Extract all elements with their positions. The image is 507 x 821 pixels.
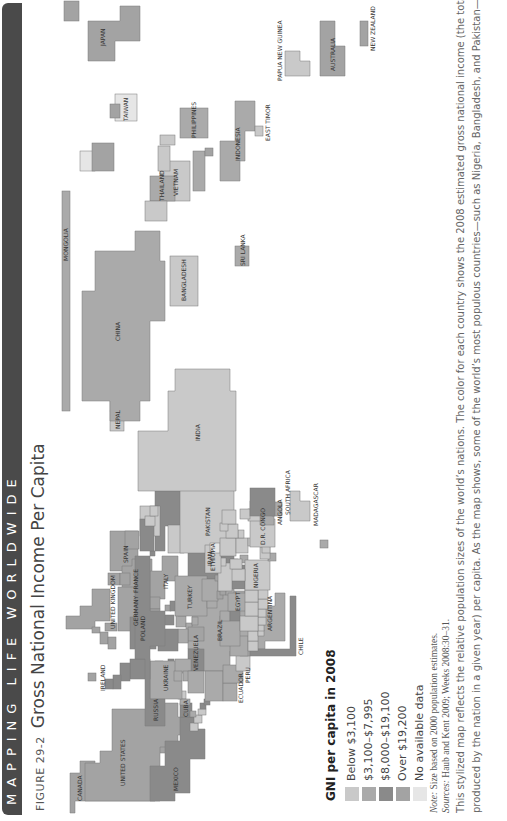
label-papua-new-guinea: PAPUA NEW GUINEA xyxy=(276,19,283,81)
label-chile: CHILE xyxy=(297,637,304,655)
country-uganda xyxy=(236,538,248,553)
label-india: INDIA xyxy=(194,423,201,441)
country-east-timor xyxy=(255,126,263,136)
label-dr-congo: D.R. CONGO xyxy=(259,508,266,545)
label-pakistan: PAKISTAN xyxy=(204,507,211,536)
legend-label: Over $19,200 xyxy=(396,706,409,781)
label-united-kingdom: UNITED KINGDOM xyxy=(109,575,116,629)
country-tunisia xyxy=(220,611,230,621)
country-hungary xyxy=(164,615,174,625)
legend-swatch xyxy=(362,787,376,801)
label-philippines: PHILIPPINES xyxy=(190,102,197,138)
label-sri-lanka: SRI LANKA xyxy=(239,233,246,266)
country-lithuania xyxy=(120,663,130,681)
country-zimbabwe xyxy=(240,509,250,519)
legend-title: GNI per capita in 2008 xyxy=(324,641,338,801)
country-belgium xyxy=(120,573,130,585)
country-singapore xyxy=(205,148,213,156)
label-japan: JAPAN xyxy=(99,28,107,47)
country-austria xyxy=(150,597,160,609)
sources-line: Sources: Haub and Kent 2009; Weeks 2008:… xyxy=(440,1,452,813)
label-russia: RUSSIA xyxy=(152,698,159,721)
label-vietnam: VIETNAM xyxy=(172,169,179,196)
country-burundi xyxy=(238,530,244,538)
country-finland xyxy=(108,637,116,649)
legend-swatch xyxy=(345,787,359,801)
country-sierra-leone xyxy=(258,617,266,625)
country-mongolia xyxy=(62,191,70,411)
sources-label: Sources: xyxy=(441,780,451,813)
legend-item-3100-7995: $3,100–$7,995 xyxy=(360,641,377,801)
country-car xyxy=(230,559,242,569)
country-new-zealand xyxy=(360,21,368,46)
country-mauritius xyxy=(320,540,328,548)
caption-line-2: produced by the nation in a given year) … xyxy=(470,1,484,813)
legend-swatch xyxy=(413,787,427,801)
region-east-asia xyxy=(62,1,208,421)
legend-item-no-data: No available data xyxy=(411,641,428,801)
label-italy: ITALY xyxy=(162,573,169,589)
label-ireland: IRELAND xyxy=(99,664,106,691)
label-new-zealand: NEW ZEALAND xyxy=(369,6,376,51)
country-bulgaria xyxy=(178,629,188,643)
country-turkmenistan xyxy=(188,671,204,693)
label-mexico: MEXICO xyxy=(172,767,179,791)
figure-number: FIGURE 29-2 xyxy=(34,736,47,811)
label-canada: CANADA xyxy=(76,775,83,801)
country-malaysia xyxy=(193,151,205,191)
country-sweden xyxy=(100,632,108,644)
country-united-kingdom xyxy=(66,589,110,629)
sources-text: Haub and Kent 2009; Weeks 2008:30–31. xyxy=(441,619,451,780)
legend-label: $3,100–$7,995 xyxy=(362,699,375,781)
map-legend: GNI per capita in 2008 Below $3,100 $3,1… xyxy=(324,641,428,801)
legend-label: Below $3,100 xyxy=(345,706,358,781)
label-peru: PERU xyxy=(244,667,251,683)
country-ireland xyxy=(88,673,96,681)
country-madagascar xyxy=(290,491,310,521)
country-hong-kong xyxy=(110,104,120,118)
country-estonia xyxy=(105,679,113,689)
country-kenya xyxy=(220,538,236,556)
label-angola: ANGOLA xyxy=(276,499,283,525)
label-egypt: EGYPT xyxy=(234,592,241,611)
legend-item-8000-19100: $8,000–$19,100 xyxy=(377,641,394,801)
country-latvia xyxy=(113,675,121,689)
figure-notes: Note: Size based on 2000 population esti… xyxy=(428,1,484,813)
country-mauritania xyxy=(248,641,258,651)
label-taiwan: TAIWAN xyxy=(122,98,129,122)
note-text: Size based on 2000 population estimates. xyxy=(429,633,439,792)
legend-item-over-19200: Over $19,200 xyxy=(394,641,411,801)
figure-title: FIGURE 29-2 Gross National Income Per Ca… xyxy=(28,443,52,811)
label-germany: GERMANY xyxy=(132,596,139,626)
country-norway xyxy=(92,627,100,633)
country-japan xyxy=(88,6,140,61)
label-united-states: UNITED STATES xyxy=(119,739,126,786)
country-tajikistan xyxy=(150,506,158,516)
caption-line-1: This stylized map reflects the relative … xyxy=(454,1,468,813)
label-venezuela: VENEZUELA xyxy=(192,634,199,671)
label-brazil: BRAZIL xyxy=(216,619,223,641)
country-guinea-bissau xyxy=(258,625,264,631)
figure-heading: Gross National Income Per Capita xyxy=(28,443,48,728)
label-madagascar: MADAGASCAR xyxy=(312,483,319,526)
country-myanmar xyxy=(145,201,167,221)
note-line: Note: Size based on 2000 population esti… xyxy=(428,1,440,813)
label-east-timor: EAST TIMOR xyxy=(264,104,271,141)
country-kyrgyzstan xyxy=(145,516,155,526)
section-banner: MAPPING LIFE WORLDWIDE xyxy=(2,3,22,815)
country-china xyxy=(82,231,165,421)
country-senegal xyxy=(248,631,258,641)
label-mongolia: MONGOLIA xyxy=(62,227,69,261)
label-indonesia: INDONESIA xyxy=(234,127,241,161)
country-liberia xyxy=(258,609,266,617)
country-ecuador xyxy=(223,683,237,701)
country-el-salvador xyxy=(190,711,196,717)
label-thailand: THAILAND xyxy=(158,170,165,202)
country-nicaragua xyxy=(198,709,206,715)
label-turkey: TURKEY xyxy=(186,585,193,610)
label-china: CHINA xyxy=(114,321,121,341)
label-nigeria: NIGERIA xyxy=(252,562,259,588)
legend-swatch xyxy=(379,787,393,801)
country-guatemala xyxy=(190,723,198,731)
country-india xyxy=(138,369,236,491)
